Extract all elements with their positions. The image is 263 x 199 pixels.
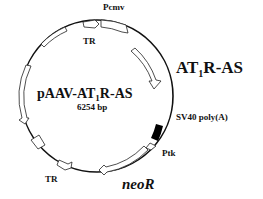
feature-arrow-upper-left xyxy=(41,27,67,47)
plasmid-name: pAAV-AT1R-AS xyxy=(37,86,133,103)
tr-top-arrow xyxy=(83,20,99,28)
neor-arrow xyxy=(99,146,148,175)
tr-top-label: TR xyxy=(83,36,96,46)
ptk-label: Ptk xyxy=(162,148,176,158)
ptk-arrow xyxy=(146,143,156,150)
pcmv-label: Pcmv xyxy=(103,2,125,12)
pcmv-arrow xyxy=(101,20,128,33)
sv40-label: SV40 poly(A) xyxy=(176,112,228,122)
neor-label: neoR xyxy=(122,176,155,192)
plasmid-map: Pcmv TR AT1R-AS pAAV-AT1R-AS 6254 bp SV4… xyxy=(0,0,263,199)
plasmid-size: 6254 bp xyxy=(77,102,107,112)
tr-bottom-label: TR xyxy=(45,174,58,184)
sv40-polya-block xyxy=(151,124,163,141)
at1r-as-arrow xyxy=(131,48,161,89)
feature-arrow-left xyxy=(19,65,31,124)
insert-label: AT1R-AS xyxy=(176,58,243,79)
tr-bottom-arrow xyxy=(57,160,72,170)
